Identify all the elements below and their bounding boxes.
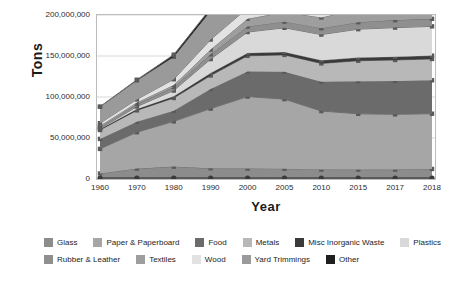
y-tick-label: 0 (6, 174, 90, 183)
x-tick-label: 2017 (376, 183, 414, 192)
legend-swatch-icon (400, 238, 409, 247)
legend-swatch-icon (326, 255, 335, 264)
legend-label: Plastics (413, 238, 441, 248)
x-tick-label: 1960 (81, 183, 119, 192)
legend-item-yard-trimmings[interactable]: Yard Trimmings (242, 255, 310, 265)
legend-label: Textiles (149, 255, 176, 265)
legend-label: Wood (205, 255, 226, 265)
legend-swatch-icon (243, 238, 252, 247)
legend-label: Paper & Paperboard (106, 238, 179, 248)
legend-swatch-icon (195, 238, 204, 247)
x-tick-label: 1990 (192, 183, 230, 192)
legend-label: Metals (256, 238, 280, 248)
legend-item-wood[interactable]: Wood (192, 255, 226, 265)
legend-item-glass[interactable]: Glass (44, 238, 77, 248)
y-tick-label: 100,000,000 (6, 92, 90, 101)
legend-label: Glass (57, 238, 77, 248)
y-axis-tick-labels: 050,000,000100,000,000150,000,000200,000… (4, 0, 90, 200)
legend-label: Misc Inorganic Waste (308, 238, 384, 248)
legend-label: Food (208, 238, 226, 248)
x-tick-label: 2000 (229, 183, 267, 192)
legend-swatch-icon (136, 255, 145, 264)
legend-label: Rubber & Leather (57, 255, 120, 265)
legend-item-metals[interactable]: Metals (243, 238, 280, 248)
legend-row: GlassPaper & PaperboardFoodMetalsMisc In… (8, 234, 452, 251)
legend-item-misc-inorganic-waste[interactable]: Misc Inorganic Waste (295, 238, 384, 248)
legend-swatch-icon (44, 238, 53, 247)
legend-swatch-icon (295, 238, 304, 247)
y-tick-label: 150,000,000 (6, 51, 90, 60)
x-tick-label: 1980 (155, 183, 193, 192)
legend-item-textiles[interactable]: Textiles (136, 255, 176, 265)
legend-swatch-icon (192, 255, 201, 264)
legend-swatch-icon (93, 238, 102, 247)
plot-area (96, 14, 436, 180)
legend-swatch-icon (242, 255, 251, 264)
plot-svg (97, 15, 435, 179)
legend-item-food[interactable]: Food (195, 238, 226, 248)
legend-row: Rubber & LeatherTextilesWoodYard Trimmin… (8, 251, 452, 268)
x-axis-title: Year (96, 199, 436, 214)
stacked-area-chart: Tons 050,000,000100,000,000150,000,00020… (0, 0, 460, 281)
legend-item-paper-paperboard[interactable]: Paper & Paperboard (93, 238, 179, 248)
x-tick-label: 2005 (265, 183, 303, 192)
y-tick-label: 200,000,000 (6, 10, 90, 19)
legend-item-rubber-leather[interactable]: Rubber & Leather (44, 255, 120, 265)
chart-legend: GlassPaper & PaperboardFoodMetalsMisc In… (8, 234, 452, 276)
x-tick-label: 1970 (118, 183, 156, 192)
legend-label: Other (339, 255, 359, 265)
legend-label: Yard Trimmings (255, 255, 310, 265)
x-tick-label: 2018 (413, 183, 451, 192)
x-tick-label: 2015 (339, 183, 377, 192)
legend-item-other[interactable]: Other (326, 255, 359, 265)
x-tick-label: 2010 (302, 183, 340, 192)
y-tick-label: 50,000,000 (6, 133, 90, 142)
legend-swatch-icon (44, 255, 53, 264)
legend-item-plastics[interactable]: Plastics (400, 238, 441, 248)
